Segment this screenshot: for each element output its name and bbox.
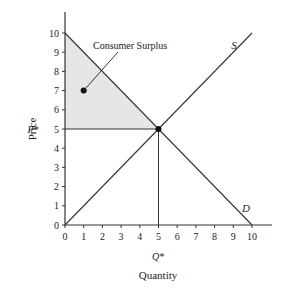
x-tick-label: 6 [175,231,180,242]
q-star-label: Q* [152,251,164,262]
x-axis-label: Quantity [139,269,178,281]
x-tick-label: 0 [63,231,68,242]
x-tick-label: 3 [119,231,124,242]
y-tick-label: 6 [54,104,59,115]
y-tick-label: 3 [54,162,59,173]
x-tick-label: 2 [100,231,105,242]
y-tick-label: 7 [54,85,59,96]
y-tick-label: 4 [54,143,59,154]
y-tick-label: 10 [49,28,59,39]
equilibrium-point [156,126,162,132]
x-tick-label: 8 [212,231,217,242]
demand-label: D [241,202,250,214]
x-tick-label: 7 [193,231,198,242]
consumer-surplus-label: Consumer Surplus [93,40,167,51]
y-tick-label: 8 [54,66,59,77]
x-tick-label: 4 [137,231,142,242]
supply-demand-chart: 012345678910012345678910 Price Quantity … [0,0,283,291]
y-tick-label: 1 [54,200,59,211]
chart-svg: 012345678910012345678910 Price Quantity … [0,0,283,291]
supply-label: S [231,39,237,51]
y-tick-label: 9 [54,47,59,58]
x-tick-label: 9 [231,231,236,242]
y-tick-label: 2 [54,181,59,192]
y-tick-label: 5 [54,124,59,135]
y-tick-label: 0 [54,220,59,231]
curves [65,33,252,225]
x-tick-label: 5 [156,231,161,242]
x-tick-label: 1 [81,231,86,242]
p-star-label: P* [26,124,38,135]
x-tick-label: 10 [247,231,257,242]
